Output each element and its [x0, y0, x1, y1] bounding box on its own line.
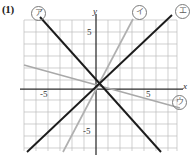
y-tick-negative-5: -5 [83, 126, 91, 136]
line-series-a [40, 17, 161, 152]
line-label-a: ア [31, 6, 46, 21]
line-label-c: ウ [172, 95, 187, 110]
problem-number: (1) [2, 3, 14, 15]
line-label-d: エ [175, 4, 190, 19]
y-tick-positive-5: 5 [87, 27, 92, 37]
coordinate-plane-svg [0, 0, 195, 159]
line-label-b: イ [132, 5, 147, 20]
x-axis-label: x [183, 81, 187, 91]
graph-figure: (1) [0, 0, 195, 159]
x-tick-positive-5: 5 [146, 89, 151, 99]
x-tick-negative-5: -5 [40, 89, 48, 99]
y-axis-label: y [93, 6, 97, 16]
